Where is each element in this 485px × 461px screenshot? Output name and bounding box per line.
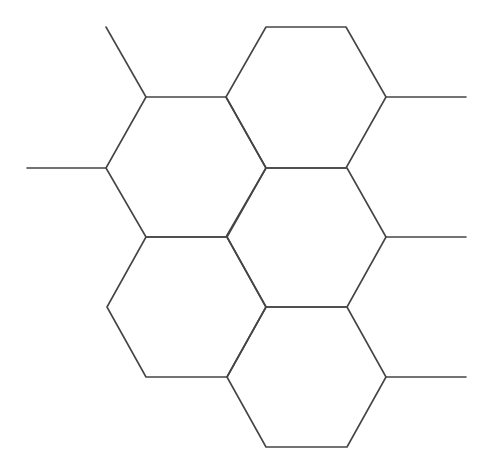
hexagon-lattice-diagram [0,0,485,461]
hexagon-cells [106,27,386,447]
hex-top-right [226,27,386,168]
hex-bottom-left [107,237,266,377]
tail-top-left-diagonal [106,27,146,97]
hex-bottom-right [227,307,386,447]
hex-top-left [106,97,266,237]
hex-middle-right [227,168,386,307]
